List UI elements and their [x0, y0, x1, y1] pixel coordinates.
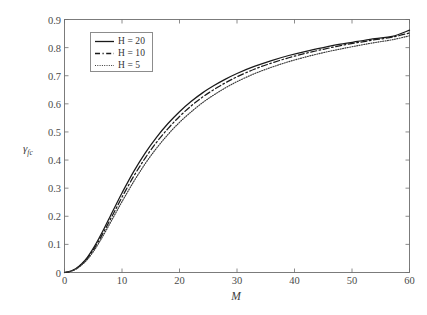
x-tick-label: 60: [404, 275, 415, 286]
x-tick-label: 50: [347, 275, 358, 286]
y-tick-label: 0.8: [48, 42, 61, 53]
y-tick-label: 0.2: [48, 211, 61, 222]
x-axis-label: M: [231, 290, 241, 302]
y-axis-label: γfc: [23, 143, 33, 157]
legend-line-sample-dotted: [94, 61, 115, 70]
x-tick-label: 0: [62, 275, 67, 286]
legend-item[interactable]: H = 5: [91, 59, 152, 71]
plot-svg: [0, 0, 427, 315]
legend-item-label: H = 10: [118, 48, 145, 58]
legend-item[interactable]: H = 20: [91, 35, 152, 47]
legend-item[interactable]: H = 10: [91, 47, 152, 59]
legend-line-sample-solid: [94, 37, 115, 46]
x-tick-label: 30: [232, 275, 243, 286]
figure-canvas: 010203040506000.10.20.30.40.50.60.70.80.…: [0, 0, 427, 315]
y-tick-label: 0.3: [48, 183, 61, 194]
x-tick-label: 10: [117, 275, 128, 286]
legend-line-sample-dashed: [94, 49, 115, 58]
y-tick-label: 0.6: [48, 98, 61, 109]
y-tick-label: 0.5: [48, 126, 61, 137]
y-tick-label: 0: [56, 267, 61, 278]
y-tick-label: 0.4: [48, 155, 61, 166]
y-tick-label: 0.9: [48, 14, 61, 25]
legend-item-label: H = 5: [118, 60, 140, 70]
y-tick-label: 0.7: [48, 70, 61, 81]
x-tick-label: 40: [289, 275, 300, 286]
x-tick-label: 20: [174, 275, 185, 286]
y-tick-label: 0.1: [48, 239, 61, 250]
legend-box: H = 20 H = 10 H = 5: [90, 32, 153, 72]
legend-item-label: H = 20: [118, 36, 145, 46]
y-axis-label-subscript: fc: [27, 148, 32, 157]
